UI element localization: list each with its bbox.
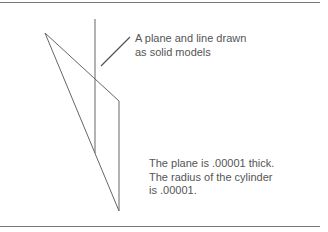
note-line-1: The plane is .00001 thick. xyxy=(149,157,274,171)
figure: A plane and line drawn as solid models T… xyxy=(0,0,328,232)
callout-leader xyxy=(101,37,130,66)
callout-line-1: A plane and line drawn xyxy=(135,32,246,46)
note-line-3: is .00001. xyxy=(149,184,274,198)
note-line-2: The radius of the cylinder xyxy=(149,171,274,185)
thickness-note: The plane is .00001 thick. The radius of… xyxy=(149,157,274,198)
callout-line-2: as solid models xyxy=(135,46,246,60)
callout-label: A plane and line drawn as solid models xyxy=(135,32,246,59)
